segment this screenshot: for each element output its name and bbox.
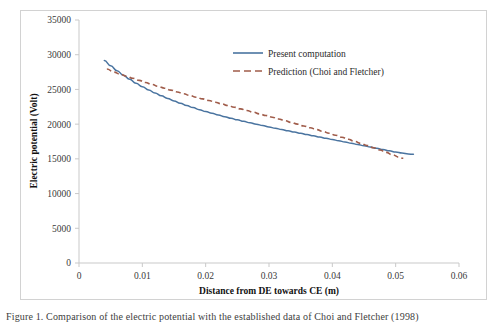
y-tick-label: 25000 — [47, 85, 71, 95]
axis-y — [75, 20, 79, 263]
x-tick-labels: 00.010.020.030.040.050.06 — [77, 271, 468, 281]
axis-x — [79, 263, 459, 267]
x-tick-label: 0.05 — [387, 271, 404, 281]
x-tick-marks — [79, 263, 459, 267]
figure-root: 05000100001500020000250003000035000 00.0… — [0, 0, 504, 324]
y-tick-labels: 05000100001500020000250003000035000 — [47, 15, 71, 268]
chart-plot: 05000100001500020000250003000035000 00.0… — [21, 11, 486, 299]
chart-frame: 05000100001500020000250003000035000 00.0… — [20, 10, 487, 300]
y-tick-label: 20000 — [47, 120, 71, 130]
x-tick-label: 0.01 — [134, 271, 151, 281]
chart-legend: Present computationPrediction (Choi and … — [233, 49, 384, 78]
y-tick-label: 35000 — [47, 15, 71, 25]
x-tick-label: 0.04 — [324, 271, 341, 281]
x-axis-title: Distance from DE towards CE (m) — [199, 286, 339, 297]
y-axis-title: Electric potential (Volt) — [29, 93, 40, 188]
y-tick-label: 30000 — [47, 50, 71, 60]
x-tick-label: 0.03 — [261, 271, 278, 281]
x-tick-label: 0 — [77, 271, 82, 281]
figure-caption: Figure 1. Comparison of the electric pot… — [6, 311, 498, 322]
y-tick-label: 10000 — [47, 189, 71, 199]
y-tick-marks — [75, 20, 79, 263]
x-tick-label: 0.06 — [451, 271, 468, 281]
y-tick-label: 15000 — [47, 154, 71, 164]
y-tick-label: 5000 — [52, 224, 71, 234]
legend-label-0: Present computation — [268, 49, 346, 59]
y-tick-label: 0 — [66, 258, 71, 268]
x-tick-label: 0.02 — [197, 271, 214, 281]
legend-label-1: Prediction (Choi and Fletcher) — [268, 67, 384, 78]
